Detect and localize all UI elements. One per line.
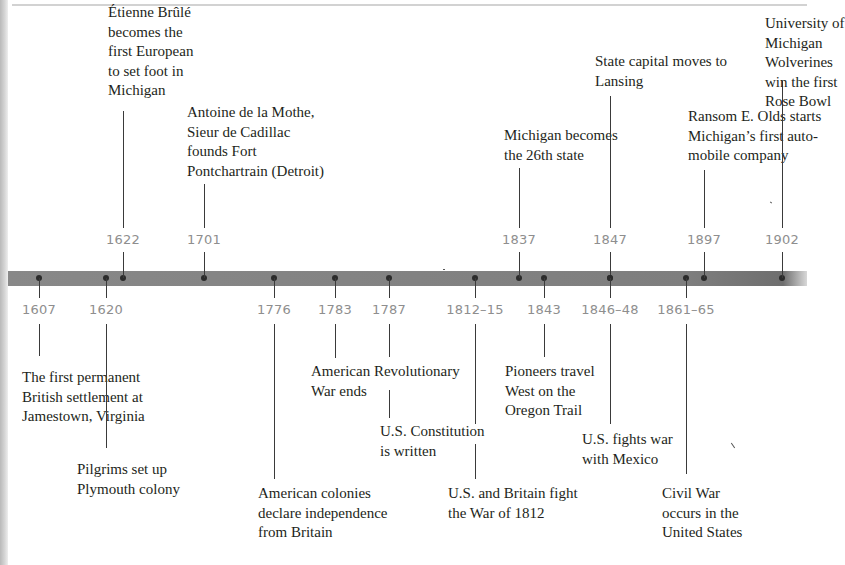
connector-line bbox=[519, 168, 520, 228]
event-label-line: The first permanent bbox=[22, 368, 145, 388]
connector-line bbox=[123, 111, 124, 228]
scan-speck bbox=[770, 201, 772, 203]
event-label-line: U.S. and Britain fight bbox=[448, 484, 578, 504]
connector-line bbox=[389, 278, 390, 298]
event-label-line: first European bbox=[108, 42, 193, 62]
connector-line bbox=[475, 324, 476, 424]
event-label-line: to set foot in bbox=[108, 62, 193, 82]
event-label-line: win the first bbox=[765, 73, 845, 93]
event-label-1622: Étienne Brûlébecomes thefirst Europeanto… bbox=[108, 3, 193, 101]
year-label-186165: 1861–65 bbox=[657, 302, 715, 317]
event-label-184648: U.S. fights warwith Mexico bbox=[582, 430, 673, 469]
year-label-1783: 1783 bbox=[318, 302, 352, 317]
event-label-line: American colonies bbox=[258, 484, 388, 504]
connector-line bbox=[475, 444, 476, 479]
event-label-line: occurs in the bbox=[662, 504, 742, 524]
year-label-1622: 1622 bbox=[106, 232, 140, 247]
connector-line bbox=[335, 324, 336, 358]
connector-line bbox=[204, 252, 205, 278]
event-label-line: Rose Bowl bbox=[765, 92, 845, 112]
event-label-line: Wolverines bbox=[765, 53, 845, 73]
event-label-line: with Mexico bbox=[582, 450, 673, 470]
event-label-1847: State capital moves toLansing bbox=[595, 52, 727, 91]
year-label-1843: 1843 bbox=[527, 302, 561, 317]
year-label-1902: 1902 bbox=[765, 232, 799, 247]
year-label-181215: 1812–15 bbox=[446, 302, 504, 317]
event-label-line: Étienne Brûlé bbox=[108, 3, 193, 23]
event-label-line: mobile company bbox=[688, 146, 821, 166]
event-label-line: Jamestown, Virginia bbox=[22, 407, 145, 427]
event-label-line: British settlement at bbox=[22, 388, 145, 408]
connector-line bbox=[123, 252, 124, 278]
event-label-1843: Pioneers travelWest on theOregon Trail bbox=[505, 362, 595, 421]
connector-line bbox=[39, 324, 40, 356]
event-label-line: Pioneers travel bbox=[505, 362, 595, 382]
event-label-1620: Pilgrims set upPlymouth colony bbox=[77, 460, 180, 499]
event-label-line: Sieur de Cadillac bbox=[187, 123, 324, 143]
event-label-line: the 26th state bbox=[504, 146, 618, 166]
event-label-line: State capital moves to bbox=[595, 52, 727, 72]
event-label-line: University of bbox=[765, 14, 845, 34]
page-edge-shadow bbox=[0, 0, 8, 565]
event-label-line: Lansing bbox=[595, 72, 727, 92]
year-label-1847: 1847 bbox=[593, 232, 627, 247]
connector-line bbox=[704, 170, 705, 228]
connector-line bbox=[519, 252, 520, 278]
connector-line bbox=[610, 96, 611, 228]
connector-line bbox=[204, 184, 205, 228]
year-label-184648: 1846–48 bbox=[581, 302, 639, 317]
event-label-1787: U.S. Constitutionis written bbox=[380, 422, 485, 461]
event-label-1897: Ransom E. Olds startsMichigan’s first au… bbox=[688, 107, 821, 166]
event-label-1837: Michigan becomesthe 26th state bbox=[504, 126, 618, 165]
connector-line bbox=[704, 252, 705, 278]
year-label-1837: 1837 bbox=[502, 232, 536, 247]
event-label-line: War ends bbox=[311, 382, 460, 402]
event-label-line: declare independence bbox=[258, 504, 388, 524]
event-label-line: U.S. fights war bbox=[582, 430, 673, 450]
scan-speck bbox=[443, 269, 445, 270]
connector-line bbox=[686, 278, 687, 298]
year-label-1620: 1620 bbox=[89, 302, 123, 317]
event-label-line: Pontchartrain (Detroit) bbox=[187, 162, 324, 182]
connector-line bbox=[274, 278, 275, 298]
event-label-line: becomes the bbox=[108, 23, 193, 43]
connector-line bbox=[389, 324, 390, 357]
event-label-line: from Britain bbox=[258, 523, 388, 543]
connector-line bbox=[106, 278, 107, 298]
year-label-1776: 1776 bbox=[257, 302, 291, 317]
event-label-line: Plymouth colony bbox=[77, 480, 180, 500]
event-label-1607: The first permanentBritish settlement at… bbox=[22, 368, 145, 427]
event-label-1783: American RevolutionaryWar ends bbox=[311, 362, 460, 401]
year-label-1607: 1607 bbox=[22, 302, 56, 317]
event-label-line: U.S. Constitution bbox=[380, 422, 485, 442]
connector-line bbox=[274, 324, 275, 479]
connector-line bbox=[544, 278, 545, 298]
event-label-line: West on the bbox=[505, 382, 595, 402]
event-label-1701: Antoine de la Mothe,Sieur de Cadillacfou… bbox=[187, 103, 324, 181]
connector-line bbox=[475, 278, 476, 298]
connector-line bbox=[610, 278, 611, 298]
event-label-186165: Civil Waroccurs in theUnited States bbox=[662, 484, 742, 543]
event-label-line: is written bbox=[380, 442, 485, 462]
event-label-line: Michigan bbox=[108, 81, 193, 101]
event-label-line: Michigan bbox=[765, 34, 845, 54]
event-label-line: Michigan’s first auto- bbox=[688, 127, 821, 147]
event-label-line: founds Fort bbox=[187, 142, 324, 162]
event-label-181215: U.S. and Britain fightthe War of 1812 bbox=[448, 484, 578, 523]
event-label-1902: University ofMichiganWolverineswin the f… bbox=[765, 14, 845, 112]
event-label-line: Civil War bbox=[662, 484, 742, 504]
connector-line bbox=[106, 420, 107, 448]
event-label-line: the War of 1812 bbox=[448, 504, 578, 524]
event-label-line: American Revolutionary bbox=[311, 362, 460, 382]
event-label-line: Antoine de la Mothe, bbox=[187, 103, 324, 123]
event-label-line: Michigan becomes bbox=[504, 126, 618, 146]
scan-speck bbox=[731, 443, 735, 448]
event-label-line: Pilgrims set up bbox=[77, 460, 180, 480]
event-label-1776: American coloniesdeclare independencefro… bbox=[258, 484, 388, 543]
connector-line bbox=[686, 324, 687, 474]
connector-line bbox=[335, 278, 336, 298]
event-label-line: Oregon Trail bbox=[505, 401, 595, 421]
year-label-1897: 1897 bbox=[687, 232, 721, 247]
connector-line bbox=[544, 324, 545, 357]
connector-line bbox=[782, 252, 783, 278]
